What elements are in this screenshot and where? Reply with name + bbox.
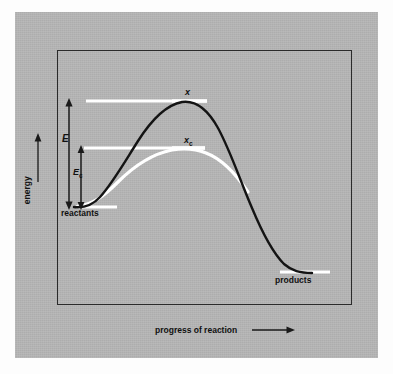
uncatalysed-curve: [74, 102, 312, 273]
transition-state-catalysed-subscript: c: [189, 140, 193, 147]
activation-energy-catalysed-label: Ec: [73, 168, 83, 179]
activation-energy-catalysed-subscript: c: [79, 172, 83, 179]
energy-profile-chart: [0, 0, 393, 374]
x-axis-arrow: [252, 327, 295, 334]
figure-page: x xc E Ec reactants products energy prog…: [0, 0, 393, 374]
reactants-label: reactants: [61, 209, 99, 218]
y-axis-arrow: [35, 133, 42, 182]
catalysed-curve: [78, 149, 248, 206]
y-axis-label: energy: [23, 160, 32, 220]
transition-state-catalysed-label: xc: [184, 136, 193, 147]
products-label: products: [275, 276, 311, 285]
activation-energy-arrow: [65, 98, 72, 210]
activation-energy-label: E: [62, 134, 69, 144]
transition-state-label: x: [185, 88, 190, 97]
x-axis-label: progress of reaction: [155, 326, 237, 335]
